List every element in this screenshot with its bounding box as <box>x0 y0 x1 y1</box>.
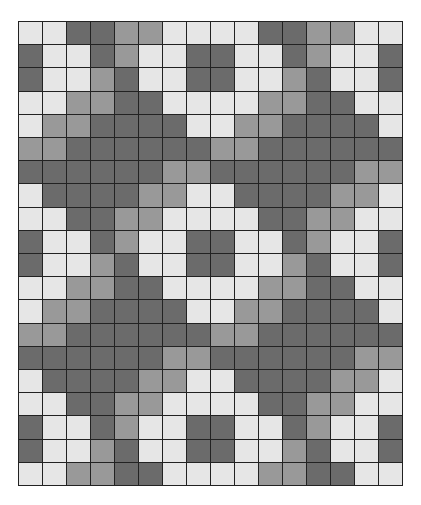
grid-cell <box>259 254 282 276</box>
grid-cell <box>19 231 42 253</box>
grid-cell <box>283 68 306 90</box>
grid-cell <box>43 184 66 206</box>
grid-cell <box>283 92 306 114</box>
grid-cell <box>187 370 210 392</box>
grid-cell <box>307 22 330 44</box>
grid-cell <box>43 277 66 299</box>
grid-cell <box>115 347 138 369</box>
grid-cell <box>235 208 258 230</box>
grid-cell <box>43 416 66 438</box>
grid-cell <box>187 393 210 415</box>
grid-cell <box>187 463 210 485</box>
grid-cell <box>139 440 162 462</box>
grid-cell <box>259 300 282 322</box>
grid-cell <box>139 184 162 206</box>
grid-cell <box>67 463 90 485</box>
grid-cell <box>235 254 258 276</box>
grid-cell <box>91 440 114 462</box>
grid-cell <box>235 231 258 253</box>
grid-cell <box>91 161 114 183</box>
grid-cell <box>163 208 186 230</box>
grid-cell <box>163 300 186 322</box>
grid-cell <box>139 324 162 346</box>
grid-cell <box>67 231 90 253</box>
grid-cell <box>163 161 186 183</box>
grid-cell <box>235 138 258 160</box>
grid-cell <box>283 440 306 462</box>
grid-cell <box>163 416 186 438</box>
grid-cell <box>355 115 378 137</box>
grid-cell <box>331 300 354 322</box>
grid-cell <box>91 115 114 137</box>
grid-cell <box>19 277 42 299</box>
grid-cell <box>67 115 90 137</box>
grid-cell <box>283 45 306 67</box>
grid-cell <box>235 324 258 346</box>
grid-cell <box>115 22 138 44</box>
grid-cell <box>187 231 210 253</box>
grid-cell <box>43 324 66 346</box>
grid-cell <box>19 161 42 183</box>
grid-cell <box>163 440 186 462</box>
grid-cell <box>115 300 138 322</box>
grid-cell <box>307 254 330 276</box>
grid-cell <box>19 68 42 90</box>
grid-cell <box>187 300 210 322</box>
grid-cell <box>331 463 354 485</box>
grid-cell <box>235 115 258 137</box>
grid-cell <box>355 277 378 299</box>
grid-cell <box>379 393 402 415</box>
grid-cell <box>307 161 330 183</box>
grid-cell <box>283 324 306 346</box>
grid-cell <box>235 45 258 67</box>
grid-cell <box>187 416 210 438</box>
grid-cell <box>331 184 354 206</box>
grid-cell <box>115 324 138 346</box>
grid-cell <box>43 231 66 253</box>
grid-cell <box>211 231 234 253</box>
grid-cell <box>355 68 378 90</box>
grid-cell <box>163 45 186 67</box>
grid-cell <box>19 440 42 462</box>
grid-cell <box>91 393 114 415</box>
grid-cell <box>139 45 162 67</box>
grid-cell <box>307 393 330 415</box>
grid-cell <box>163 277 186 299</box>
grid-cell <box>187 347 210 369</box>
grid-cell <box>379 324 402 346</box>
grid-cell <box>307 463 330 485</box>
grid-cell <box>331 393 354 415</box>
grid-cell <box>355 231 378 253</box>
grid-cell <box>67 184 90 206</box>
grid-cell <box>283 161 306 183</box>
grid-cell <box>115 254 138 276</box>
grid-cell <box>139 161 162 183</box>
grid-cell <box>43 393 66 415</box>
grid-cell <box>139 254 162 276</box>
grid-cell <box>139 300 162 322</box>
grid-cell <box>139 463 162 485</box>
grid-cell <box>283 115 306 137</box>
grid-cell <box>331 161 354 183</box>
grid-cell <box>355 416 378 438</box>
grid-cell <box>331 138 354 160</box>
grid-cell <box>259 161 282 183</box>
grid-cell <box>139 393 162 415</box>
grid-cell <box>19 370 42 392</box>
grid-cell <box>19 300 42 322</box>
grid-cell <box>115 463 138 485</box>
grid-cell <box>91 324 114 346</box>
grid-cell <box>259 184 282 206</box>
grid-cell <box>307 92 330 114</box>
grid-cell <box>355 463 378 485</box>
grid-cell <box>259 45 282 67</box>
grid-cell <box>187 92 210 114</box>
grid-cell <box>259 347 282 369</box>
grid-cell <box>331 231 354 253</box>
grid-cell <box>67 68 90 90</box>
grid-cell <box>355 324 378 346</box>
grid-cell <box>307 416 330 438</box>
grid-cell <box>115 277 138 299</box>
grid-cell <box>379 92 402 114</box>
grid-cell <box>235 68 258 90</box>
